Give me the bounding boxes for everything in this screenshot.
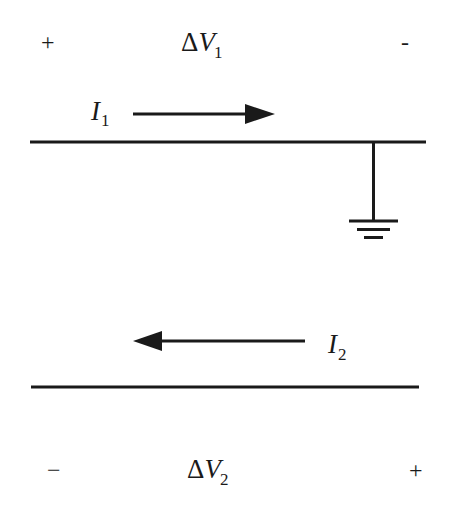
- delta-v1-label: ΔV1: [181, 27, 222, 62]
- i1-subscript: 1: [101, 111, 110, 130]
- top-minus-sign: -: [401, 29, 409, 55]
- top-voltage-annotation: + ΔV1 -: [41, 27, 409, 62]
- i1-label: I1: [90, 96, 110, 130]
- i2-label: I2: [327, 329, 347, 364]
- current-i1: I1: [90, 96, 275, 130]
- bottom-voltage-annotation: − ΔV2 +: [47, 454, 423, 489]
- i2-arrow-head: [133, 331, 162, 351]
- circuit-diagram: + ΔV1 - I1 I2 − ΔV2 +: [0, 0, 452, 512]
- delta-v1-prefix: Δ: [181, 27, 198, 57]
- top-plus-sign: +: [41, 29, 55, 55]
- delta-v2-subscript: 2: [220, 470, 229, 489]
- delta-v1-subscript: 1: [214, 43, 223, 62]
- delta-v2-label: ΔV2: [187, 454, 228, 489]
- ground-symbol: [349, 142, 398, 238]
- bottom-plus-sign: +: [409, 457, 423, 483]
- i1-arrow-head: [245, 104, 275, 124]
- i2-subscript: 2: [338, 345, 347, 364]
- current-i2: I2: [133, 329, 347, 364]
- delta-v2-prefix: Δ: [187, 454, 204, 484]
- bottom-minus-sign: −: [47, 457, 61, 483]
